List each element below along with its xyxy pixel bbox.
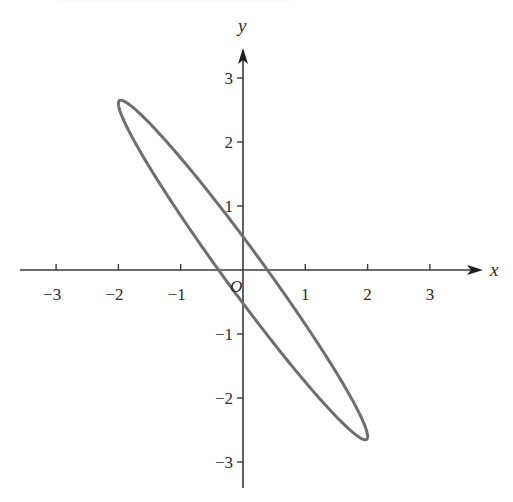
- x-tick-label: 3: [426, 285, 435, 304]
- x-tick-label: 2: [363, 285, 372, 304]
- y-tick-label: 3: [225, 69, 234, 88]
- x-tick-label: −1: [168, 285, 186, 304]
- x-tick-label: 1: [301, 285, 310, 304]
- x-tick-label: −2: [105, 285, 123, 304]
- origin-label: O: [230, 277, 242, 296]
- y-tick-label: 2: [225, 133, 234, 152]
- y-tick-label: −3: [215, 453, 233, 472]
- chart-canvas: −3−2−1123−3−2−1123 x y O: [0, 0, 513, 502]
- y-tick-label: −2: [215, 389, 233, 408]
- x-axis-label: x: [489, 259, 499, 280]
- axes: [20, 48, 483, 488]
- y-axis-label: y: [236, 15, 247, 36]
- x-tick-label: −3: [43, 285, 61, 304]
- y-tick-label: −1: [215, 325, 233, 344]
